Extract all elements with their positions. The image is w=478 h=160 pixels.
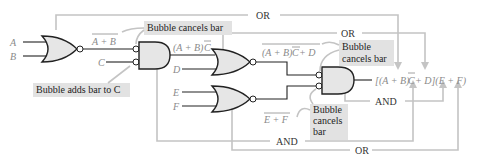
svg-text:C: C (292, 47, 299, 58)
nor-gate-ab (42, 36, 83, 62)
and-gate-1 (133, 42, 170, 69)
svg-text:Bubble: Bubble (342, 41, 371, 52)
svg-text:Bubble: Bubble (313, 104, 342, 115)
expr-and1: (A + B) C (173, 41, 211, 54)
svg-text:(A + B): (A + B) (173, 42, 204, 54)
svg-text:A + B: A + B (91, 36, 116, 47)
svg-text:C: C (408, 75, 415, 86)
note-bubble-cancels-bar-1: Bubble cancels bar (122, 21, 232, 44)
logic-circuit-diagram: OR OR AND AND OR (0, 0, 478, 160)
bottom-and-label: AND (276, 136, 298, 147)
input-c: C (98, 57, 105, 68)
svg-text:+ D](E + F): + D](E + F) (415, 75, 467, 87)
svg-text:Bubble cancels bar: Bubble cancels bar (147, 22, 224, 33)
svg-text:Bubble adds bar to C: Bubble adds bar to C (36, 84, 121, 95)
nor-bubble (77, 46, 83, 52)
svg-text:cancels bar: cancels bar (342, 53, 387, 64)
note-bubble-cancels-bar-3: Bubble cancels bar (297, 89, 348, 140)
nor-gate-ef (212, 86, 256, 112)
input-f: F (172, 101, 180, 112)
bottom-or-label: OR (355, 145, 369, 156)
top-or-label: OR (256, 10, 270, 21)
input-d: D (172, 64, 181, 75)
expr-final-output: [(A + B) C + D](E + F) (375, 73, 467, 87)
svg-text:+ D: + D (299, 47, 316, 58)
mid-or-label: OR (341, 28, 355, 39)
svg-text:C: C (204, 42, 211, 53)
expr-nor2: (A + B) C + D (262, 44, 320, 59)
right-and-label: AND (375, 96, 397, 107)
expr-nor3: E + F (263, 113, 290, 125)
svg-text:[(A + B): [(A + B) (375, 75, 410, 87)
input-e: E (172, 87, 179, 98)
and-gate-final (316, 67, 354, 94)
note-bubble-adds-bar: Bubble adds bar to C (33, 66, 130, 97)
circuit-canvas: OR OR AND AND OR (0, 0, 478, 160)
input-a: A (9, 37, 17, 48)
svg-text:E + F: E + F (263, 114, 289, 125)
nor-gate-cd (212, 49, 256, 75)
svg-text:cancels: cancels (313, 115, 343, 126)
svg-text:bar: bar (313, 126, 326, 137)
svg-text:(A + B): (A + B) (262, 47, 293, 59)
input-b: B (10, 51, 16, 62)
expr-nor1: A + B (91, 34, 118, 47)
